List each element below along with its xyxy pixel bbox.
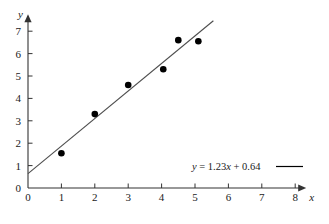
y-tick-label-4: 4 bbox=[16, 92, 22, 104]
x-axis-name-label: x bbox=[308, 191, 314, 203]
scatter-plot-figure: 01234567801234567 yx y = 1.23x + 0.64 bbox=[0, 0, 329, 224]
x-tick-label-8: 8 bbox=[292, 191, 298, 203]
y-tick-label-0: 0 bbox=[16, 182, 22, 194]
x-tick-label-4: 4 bbox=[159, 191, 165, 203]
y-tick-label-2: 2 bbox=[16, 137, 22, 149]
x-tick-label-0: 0 bbox=[25, 191, 31, 203]
y-tick-label-6: 6 bbox=[16, 48, 22, 60]
x-tick-label-7: 7 bbox=[259, 191, 265, 203]
x-tick-label-1: 1 bbox=[59, 191, 65, 203]
y-tick-label-5: 5 bbox=[16, 70, 22, 82]
data-point bbox=[175, 37, 182, 44]
legend-equation-label: y = 1.23x + 0.64 bbox=[191, 161, 261, 172]
legend: y = 1.23x + 0.64 bbox=[191, 161, 303, 172]
y-tick-label-3: 3 bbox=[16, 115, 22, 127]
y-tick-label-7: 7 bbox=[16, 25, 22, 37]
data-point bbox=[58, 150, 65, 157]
axis-name-labels: yx bbox=[17, 8, 314, 203]
data-point bbox=[195, 38, 202, 45]
y-axis-name-label: y bbox=[17, 8, 23, 20]
x-tick-label-6: 6 bbox=[226, 191, 232, 203]
y-axis-arrowhead bbox=[24, 14, 31, 22]
data-point bbox=[92, 111, 99, 118]
data-point bbox=[125, 82, 132, 89]
data-point bbox=[160, 66, 167, 73]
x-axis-arrowhead bbox=[298, 184, 306, 191]
legend-equation-intercept: + 0.64 bbox=[231, 161, 261, 172]
data-points-group bbox=[58, 37, 202, 157]
legend-equation-body: = 1.23 bbox=[197, 161, 227, 172]
x-tick-label-5: 5 bbox=[192, 191, 198, 203]
fit-line-segment bbox=[28, 21, 213, 174]
x-tick-label-3: 3 bbox=[125, 191, 131, 203]
regression-line bbox=[28, 21, 213, 174]
axes-group bbox=[24, 14, 306, 191]
y-tick-label-1: 1 bbox=[16, 160, 22, 172]
plot-area: 01234567801234567 yx y = 1.23x + 0.64 bbox=[0, 0, 329, 224]
x-tick-label-2: 2 bbox=[92, 191, 98, 203]
axis-tick-labels-group: 01234567801234567 bbox=[16, 25, 299, 203]
